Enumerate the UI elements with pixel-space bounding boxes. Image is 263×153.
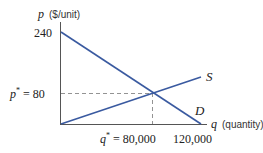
supply-line	[61, 77, 201, 124]
p-star-label: p*= 80	[9, 86, 45, 101]
supply-label: S	[206, 69, 213, 84]
supply-demand-chart: p ($/unit) 240 p*= 80 q*= 80,000 120,000…	[0, 0, 263, 153]
y-axis-label: p ($/unit)	[37, 7, 80, 21]
demand-line	[61, 32, 201, 124]
q-star-label: q*= 80,000	[100, 131, 156, 146]
demand-label: D	[194, 103, 205, 118]
y-tick-240: 240	[34, 26, 52, 40]
x-tick-120000: 120,000	[173, 132, 212, 146]
x-axis-label: q (quantity)	[211, 117, 263, 131]
